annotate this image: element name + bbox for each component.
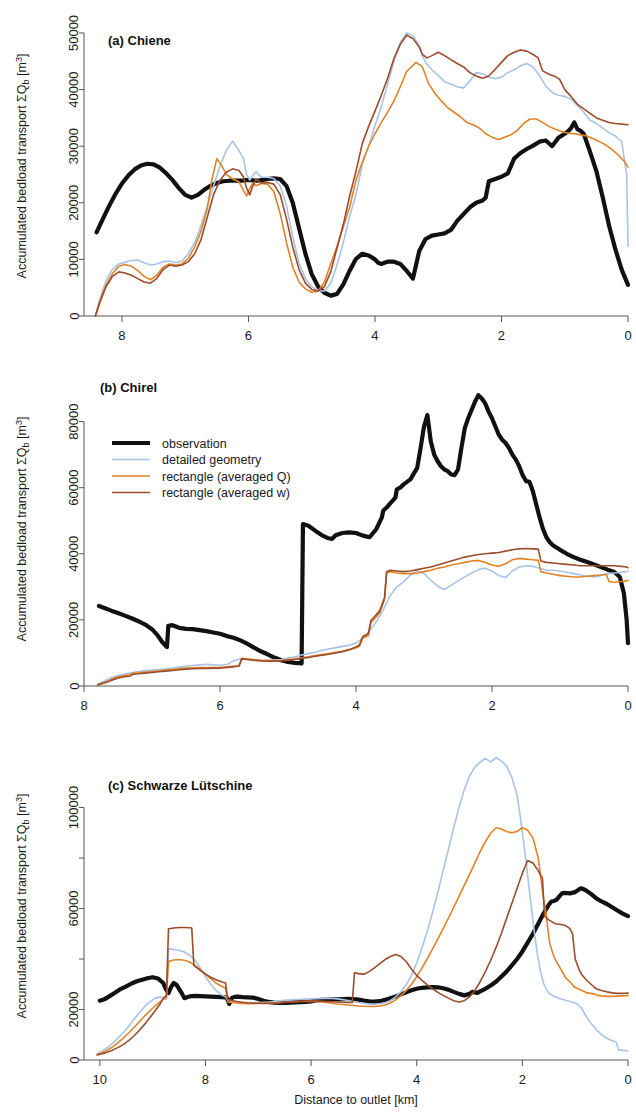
x-tick-label-c-5: 0	[624, 1072, 631, 1087]
y-tick-label-c-2: 60000	[67, 890, 82, 926]
y-tick-label-c-3: 100000	[67, 786, 82, 829]
legend-label-rectangle-averaged-q: rectangle (averaged Q)	[162, 470, 291, 484]
y-tick-label-a-2: 20000	[67, 185, 82, 221]
panel-title-a: (a) Chiene	[108, 33, 171, 48]
x-tick-label-b-1: 6	[216, 698, 223, 713]
y-tick-label-b-1: 20000	[67, 602, 82, 638]
x-tick-label-a-4: 0	[624, 328, 631, 343]
panel-title-c: (c) Schwarze Lütschine	[108, 778, 252, 793]
panel-title-b: (b) Chirel	[100, 380, 157, 395]
y-axis-title-b: Accumulated bedload transport ΣQb [m3]	[14, 417, 31, 642]
y-tick-label-a-1: 10000	[67, 241, 82, 277]
x-tick-label-a-1: 6	[245, 328, 252, 343]
y-tick-label-b-4: 80000	[67, 404, 82, 440]
y-tick-label-b-0: 0	[67, 682, 82, 689]
x-tick-label-b-4: 0	[624, 698, 631, 713]
x-tick-label-a-0: 8	[118, 328, 125, 343]
x-tick-label-c-2: 6	[307, 1072, 314, 1087]
x-tick-label-c-1: 8	[202, 1072, 209, 1087]
y-tick-label-c-1: 20000	[67, 991, 82, 1027]
y-tick-label-a-4: 40000	[67, 72, 82, 108]
y-tick-label-c-0: 0	[67, 1056, 82, 1063]
y-axis-title-a: Accumulated bedload transport ΣQb [m3]	[14, 54, 31, 279]
x-tick-label-a-3: 2	[498, 328, 505, 343]
x-tick-label-c-3: 4	[413, 1072, 420, 1087]
y-tick-label-b-2: 40000	[67, 536, 82, 572]
y-tick-label-b-3: 60000	[67, 470, 82, 506]
x-tick-label-c-0: 10	[93, 1072, 107, 1087]
bedload-transport-figure: 0100002000030000400005000086420(a) Chien…	[0, 0, 636, 1118]
legend-label-observation: observation	[162, 437, 227, 451]
x-tick-label-c-4: 2	[519, 1072, 526, 1087]
x-tick-label-b-0: 8	[80, 698, 87, 713]
y-tick-label-a-3: 30000	[67, 128, 82, 164]
y-axis-title-c: Accumulated bedload transport ΣQb [m3]	[14, 794, 31, 1019]
y-tick-label-a-0: 0	[67, 312, 82, 319]
x-tick-label-a-2: 4	[371, 328, 378, 343]
legend-label-detailed-geometry: detailed geometry	[162, 453, 262, 467]
legend-label-rectangle-averaged-w: rectangle (averaged w)	[162, 486, 290, 500]
x-tick-label-b-3: 2	[488, 698, 495, 713]
x-axis-title: Distance to outlet [km]	[294, 1093, 418, 1107]
y-tick-label-a-5: 50000	[67, 15, 82, 51]
x-tick-label-b-2: 4	[352, 698, 359, 713]
